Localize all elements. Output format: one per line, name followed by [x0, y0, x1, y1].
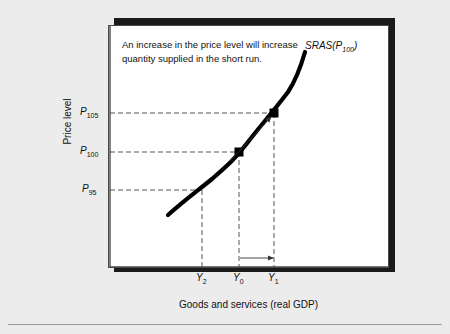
- sras-label-close: ): [354, 40, 357, 51]
- x-tick-base-y0: Y: [233, 272, 240, 283]
- y-tick-sub-p105: 105: [87, 112, 99, 119]
- y-tick-base-p95: P: [82, 183, 89, 194]
- y-tick-sub-p100: 100: [87, 151, 99, 158]
- y-tick-label-p100: P100: [80, 145, 98, 158]
- sras-label-subscript: 100: [342, 46, 354, 53]
- x-tick-sub-y1: 1: [275, 278, 279, 285]
- y-tick-label-p105: P105: [80, 106, 98, 119]
- marker-new-equilibrium: [270, 109, 279, 118]
- x-tick-sub-y0: 0: [240, 278, 244, 285]
- x-tick-sub-y2: 2: [203, 278, 207, 285]
- y-axis-title: Price level: [62, 82, 73, 162]
- sras-curve-label: SRAS(P100): [305, 40, 357, 53]
- x-tick-label-y0: Y0: [233, 272, 244, 285]
- arrow-movement-along-curve: [230, 117, 271, 161]
- x-tick-base-y2: Y: [196, 272, 203, 283]
- guide-lines: [110, 113, 274, 267]
- y-tick-label-p95: P95: [82, 183, 96, 196]
- sras-curve: [168, 52, 305, 215]
- annotation-text: An increase in the price level will incr…: [122, 38, 307, 65]
- y-tick-base-p105: P: [80, 106, 87, 117]
- y-tick-sub-p95: 95: [89, 189, 97, 196]
- x-tick-label-y1: Y1: [268, 272, 279, 285]
- x-tick-label-y2: Y2: [196, 272, 207, 285]
- page-bottom-rule: [8, 324, 442, 325]
- y-tick-base-p100: P: [80, 145, 87, 156]
- figure-page: An increase in the price level will incr…: [0, 0, 450, 334]
- x-axis-title: Goods and services (real GDP): [108, 299, 389, 310]
- sras-label-main: SRAS(P: [305, 40, 342, 51]
- x-tick-base-y1: Y: [268, 272, 275, 283]
